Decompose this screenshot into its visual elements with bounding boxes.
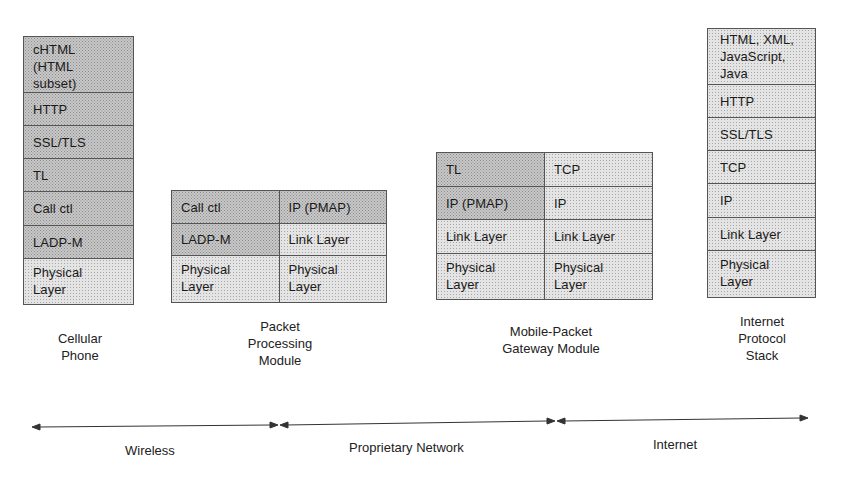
network-span-arrows [0,0,844,496]
arrowhead-left-icon [32,424,40,430]
arrowhead-right-icon [800,415,808,421]
arrowhead-right-icon [270,422,278,428]
arrowhead-left-icon [280,422,288,428]
region-label-proprietary-network: Proprietary Network [349,440,464,455]
arrowhead-right-icon [547,418,555,424]
arrowhead-left-icon [557,418,565,424]
region-label-internet: Internet [653,437,697,452]
region-label-wireless: Wireless [125,443,175,458]
